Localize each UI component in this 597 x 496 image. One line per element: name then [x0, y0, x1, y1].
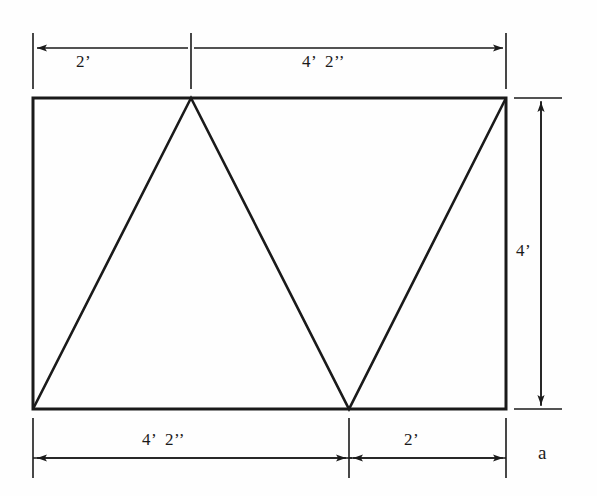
technical-drawing-svg	[0, 0, 597, 496]
zigzag-polyline	[33, 98, 506, 409]
dimension-label-right-side: 4’	[516, 241, 531, 261]
diagram-canvas: 2’ 4’ 2’’ 4’ 2’’ 2’ 4’ a	[0, 0, 597, 496]
figure-label: a	[538, 442, 546, 464]
dimension-label-top-right: 4’ 2’’	[302, 52, 345, 72]
dimension-label-top-left: 2’	[76, 52, 91, 72]
dimension-label-bottom-right: 2’	[404, 430, 419, 450]
dimension-label-bottom-left: 4’ 2’’	[142, 430, 185, 450]
